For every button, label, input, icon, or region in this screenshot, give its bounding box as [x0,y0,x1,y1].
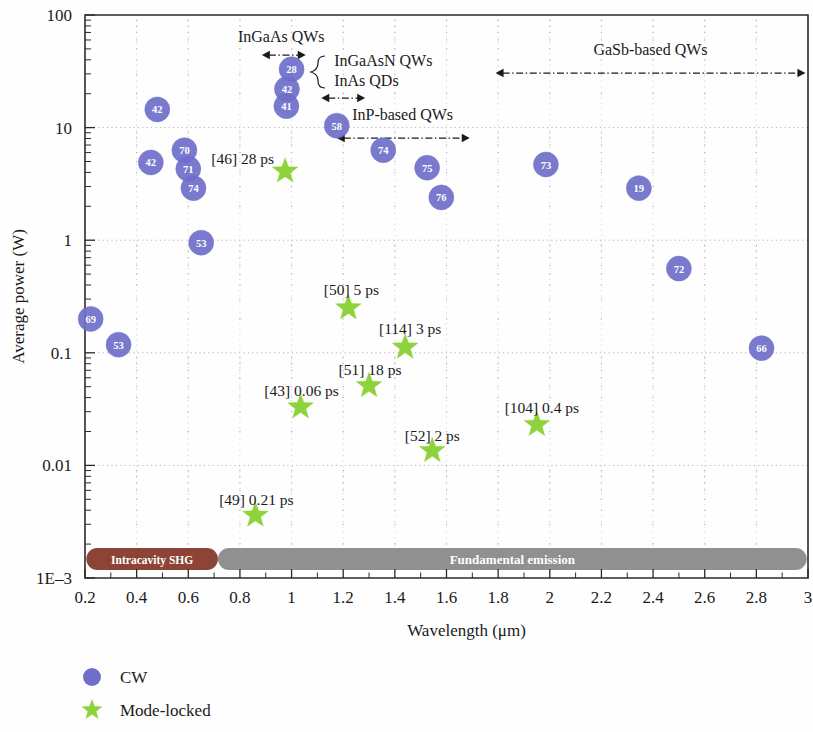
grid-dot [652,397,654,399]
grid-dot [704,543,706,545]
grid-dot [342,264,344,266]
arrow-head-right-ingaas-qws [298,51,306,59]
grid-dot [756,524,758,526]
grid-dot [188,39,190,41]
grid-dot [756,39,758,41]
grid-dot [342,19,344,21]
grid-dot [239,48,241,50]
grid-dot [549,490,551,492]
grid-dot [704,431,706,433]
grid-dot [601,273,603,275]
grid-dot [704,19,706,21]
grid-dot [136,257,138,259]
grid-dot [188,397,190,399]
grid-dot [342,32,344,34]
grid-dot [601,499,603,501]
grid-dot [342,206,344,208]
grid-dot [756,318,758,320]
grid-dot [239,245,241,247]
grid-dot [136,250,138,252]
grid-dot [188,543,190,545]
grid-dot [756,411,758,413]
grid-dot [394,264,396,266]
cw-marker-ref-label: 42 [152,104,163,115]
x-axis-title: Wavelength (μm) [407,621,526,640]
grid-dot [549,363,551,365]
grid-dot [342,273,344,275]
cw-marker-ref-label: 53 [113,340,124,351]
grid-dot [136,73,138,75]
cw-data-point: 74 [181,176,206,201]
grid-dot [704,161,706,163]
grid-dot [136,524,138,526]
grid-dot [446,482,448,484]
grid-dot [652,482,654,484]
grid-dot [291,138,293,140]
grid-dot [136,499,138,501]
grid-dot [188,48,190,50]
band-label-fundamental-emission: Fundamental emission [450,552,576,567]
grid-dot [446,543,448,545]
annotation-label-gasb-based-qws: GaSb-based QWs [593,41,707,58]
grid-dot [394,470,396,472]
grid-dot [704,132,706,134]
legend-item-cw: CW [83,668,148,687]
grid-dot [652,19,654,21]
grid-dot [188,257,190,259]
grid-dot [601,93,603,95]
grid-dot [188,363,190,365]
grid-dot [342,25,344,27]
grid-dot [136,369,138,371]
grid-dot [291,250,293,252]
x-tick-label: 1.4 [384,588,406,607]
grid-dot [188,377,190,379]
grid-dot [601,19,603,21]
grid-dot [291,284,293,286]
grid-dot [291,357,293,359]
grid-dot [601,476,603,478]
grid-dot [652,264,654,266]
grid-dot [188,25,190,27]
grid-dot [239,318,241,320]
grid-dot [756,476,758,478]
grid-dot [446,257,448,259]
grid-dot [291,363,293,365]
grid-dot [446,250,448,252]
grid-dot [652,470,654,472]
grid-dot [136,386,138,388]
grid-dot [704,257,706,259]
grid-dot [601,509,603,511]
grid-dot [136,543,138,545]
arrow-head-right-ingaasn-inas-range [357,94,365,102]
mode-locked-labels: [46] 28 ps[50] 5 ps[114] 3 ps[51] 18 ps[… [211,150,579,508]
grid-dot [342,509,344,511]
grid-dot [291,524,293,526]
grid-dot [188,318,190,320]
grid-dot [704,499,706,501]
grid-dot [756,509,758,511]
grid-dot [704,284,706,286]
mode-locked-data-point [272,158,298,182]
grid-dot [394,19,396,21]
grid-dot [704,32,706,34]
y-tick-label: 1 [64,231,73,250]
grid-dot [342,48,344,50]
grid-dot [188,19,190,21]
cw-data-point: 58 [324,113,349,138]
grid-dot [188,132,190,134]
grid-dot [446,298,448,300]
grid-dot [549,386,551,388]
scatter-plot-svg: Intracavity SHGFundamental emission 0.20… [0,0,813,732]
mode-locked-label: [114] 3 ps [379,320,441,337]
grid-dot [704,377,706,379]
grid-dot [446,273,448,275]
grid-dot [756,138,758,140]
grid-dot [136,298,138,300]
grid-dot [446,19,448,21]
grid-dot [652,32,654,34]
grid-dot [291,298,293,300]
grid-dot [188,273,190,275]
arrow-head-left-ingaas-qws [262,51,270,59]
grid-dot [756,93,758,95]
grid-dot [497,524,499,526]
